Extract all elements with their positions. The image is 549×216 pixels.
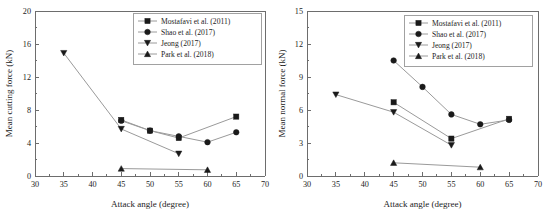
x-tick-label: 50 (418, 180, 426, 189)
y-tick-label: 16 (23, 40, 31, 49)
legend-label: Park et al. (2018) (432, 52, 485, 61)
legend-label: Shao et al. (2017) (161, 28, 215, 37)
x-axis-ticks: 303540455055606570 (31, 172, 269, 189)
x-tick-label: 70 (261, 180, 269, 189)
data-point-circle (391, 58, 397, 64)
legend: Mostafavi et al. (2011)Shao et al. (2017… (133, 13, 261, 64)
legend-label: Mostafavi et al. (2011) (432, 19, 502, 28)
series-3 (391, 160, 484, 170)
x-axis-title: Attack angle (degree) (384, 199, 462, 209)
y-axis-ticks: 03691215 (295, 7, 311, 181)
x-tick-label: 35 (60, 180, 68, 189)
data-point-square (416, 20, 421, 25)
data-point-circle (145, 29, 151, 35)
normal-force-plot: 30354045505560657003691215Attack angle (… (274, 0, 549, 216)
x-tick-label: 30 (31, 180, 39, 189)
x-tick-label: 65 (232, 180, 240, 189)
y-tick-label: 12 (23, 73, 31, 82)
cutting-force-plot: 303540455055606570048121620Attack angle … (0, 0, 274, 216)
y-tick-label: 6 (299, 106, 303, 115)
x-tick-label: 45 (390, 180, 398, 189)
data-point-circle (147, 128, 153, 134)
x-axis-ticks: 303540455055606570 (303, 172, 542, 189)
data-point-square (391, 100, 396, 105)
legend-label: Park et al. (2018) (161, 50, 214, 59)
x-tick-label: 55 (447, 180, 455, 189)
data-point-triangle-down (176, 151, 182, 157)
y-axis-title: Mean cutting force (kN) (4, 50, 14, 138)
data-point-circle (420, 84, 426, 90)
chart-panel-cutting-force: 303540455055606570048121620Attack angle … (0, 0, 274, 216)
x-tick-label: 40 (361, 180, 369, 189)
x-tick-label: 30 (303, 180, 311, 189)
x-tick-label: 70 (534, 180, 542, 189)
figure-container: 303540455055606570048121620Attack angle … (0, 0, 549, 216)
series-1 (391, 58, 512, 127)
data-point-circle (477, 122, 483, 128)
y-tick-label: 9 (299, 73, 303, 82)
x-tick-label: 45 (117, 180, 125, 189)
y-axis-ticks: 048121620 (23, 7, 39, 181)
legend-label: Jeong (2017) (432, 41, 472, 50)
x-tick-label: 60 (476, 180, 484, 189)
data-point-square (145, 18, 150, 23)
data-point-circle (449, 112, 455, 118)
y-tick-label: 3 (299, 139, 303, 148)
y-tick-label: 20 (23, 7, 31, 16)
series-3 (118, 166, 210, 173)
legend-label: Shao et al. (2017) (432, 30, 486, 39)
x-tick-label: 65 (505, 180, 513, 189)
series-2 (61, 50, 182, 156)
data-point-square (449, 136, 454, 141)
data-point-triangle-down (118, 126, 124, 132)
y-axis-title: Mean normal force (kN) (277, 49, 287, 137)
data-point-circle (176, 134, 182, 140)
data-point-square (234, 114, 239, 119)
y-tick-label: 0 (299, 172, 303, 181)
chart-panel-normal-force: 30354045505560657003691215Attack angle (… (274, 0, 549, 216)
data-point-circle (416, 31, 422, 37)
y-tick-label: 8 (27, 106, 31, 115)
data-point-circle (118, 118, 124, 124)
y-tick-label: 0 (27, 172, 31, 181)
y-tick-label: 4 (27, 139, 31, 148)
y-tick-label: 12 (295, 40, 303, 49)
data-point-circle (506, 117, 512, 123)
x-tick-label: 50 (146, 180, 154, 189)
legend-label: Mostafavi et al. (2011) (161, 17, 231, 26)
x-tick-label: 55 (175, 180, 183, 189)
x-tick-label: 35 (332, 180, 340, 189)
legend: Mostafavi et al. (2011)Shao et al. (2017… (404, 15, 532, 66)
data-point-circle (205, 139, 211, 145)
legend-label: Jeong (2017) (161, 39, 201, 48)
series-0 (391, 100, 512, 142)
x-axis-title: Attack angle (degree) (111, 199, 189, 209)
data-point-triangle-down (391, 110, 397, 116)
data-point-triangle-down (448, 143, 454, 149)
y-tick-label: 15 (295, 7, 303, 16)
data-point-circle (233, 129, 239, 135)
x-tick-label: 40 (88, 180, 96, 189)
x-tick-label: 60 (203, 180, 211, 189)
